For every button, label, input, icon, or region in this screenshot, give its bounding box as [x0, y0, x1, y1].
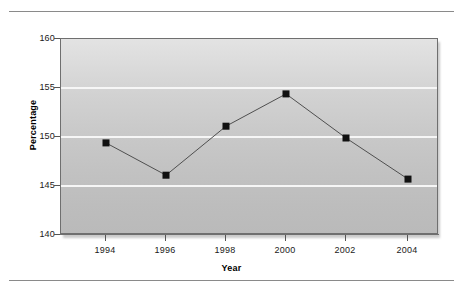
- x-tick-label: 1998: [205, 245, 245, 255]
- x-tick-mark: [105, 235, 106, 241]
- x-tick-label: 1994: [85, 245, 125, 255]
- x-tick-label: 2004: [387, 245, 427, 255]
- x-tick-mark: [165, 235, 166, 241]
- x-tick-mark: [225, 235, 226, 241]
- y-tick-label: 160: [25, 33, 55, 43]
- x-tick-mark: [345, 235, 346, 241]
- y-tick-label: 145: [25, 180, 55, 190]
- data-point-marker: [163, 172, 170, 179]
- x-tick-mark: [285, 235, 286, 241]
- x-axis-line: [60, 234, 439, 235]
- y-tick-label: 150: [25, 131, 55, 141]
- chart-figure: Percentage 160 155 150 145 140: [0, 0, 463, 292]
- x-tick-label: 2002: [325, 245, 365, 255]
- data-point-marker: [283, 90, 290, 97]
- data-point-marker: [343, 135, 350, 142]
- y-tick-label: 155: [25, 82, 55, 92]
- series-plot: [61, 39, 438, 234]
- data-point-marker: [223, 123, 230, 130]
- data-point-marker: [405, 176, 412, 183]
- series-line: [106, 94, 408, 179]
- x-tick-mark: [407, 235, 408, 241]
- plot-area: [60, 38, 438, 234]
- x-axis-title: Year: [0, 263, 463, 273]
- x-tick-label: 1996: [145, 245, 185, 255]
- y-axis-line: [60, 38, 61, 235]
- top-divider-rule: [9, 11, 454, 12]
- bottom-divider-rule: [9, 280, 454, 281]
- x-tick-label: 2000: [265, 245, 305, 255]
- y-tick-label: 140: [25, 229, 55, 239]
- data-point-marker: [103, 139, 110, 146]
- y-axis-title: Percentage: [28, 80, 38, 170]
